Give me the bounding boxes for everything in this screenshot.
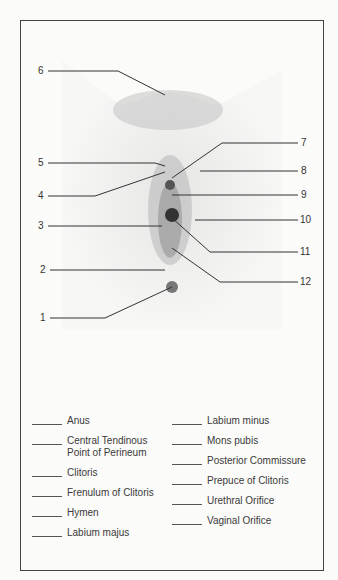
callout-8: 8 [301, 165, 307, 176]
key-item: Anus [32, 415, 162, 427]
answer-blank[interactable] [172, 484, 202, 485]
answer-blank[interactable] [32, 444, 62, 445]
key-item: Clitoris [32, 467, 162, 479]
callout-12: 12 [300, 276, 311, 287]
callout-10: 10 [300, 214, 311, 225]
key-item: Frenulum of Clitoris [32, 487, 162, 499]
key-item: Prepuce of Clitoris [172, 475, 322, 487]
answer-blank[interactable] [172, 424, 202, 425]
callout-7: 7 [301, 137, 307, 148]
answer-blank[interactable] [172, 524, 202, 525]
key-item: Urethral Orifice [172, 495, 322, 507]
callout-5: 5 [38, 157, 44, 168]
answer-blank[interactable] [172, 444, 202, 445]
anatomy-illustration [0, 0, 338, 400]
answer-blank[interactable] [32, 476, 62, 477]
callout-3: 3 [38, 220, 44, 231]
key-item: Central Tendinous Point of Perineum [32, 435, 162, 459]
key-item: Labium minus [172, 415, 322, 427]
answer-blank[interactable] [32, 424, 62, 425]
key-item: Vaginal Orifice [172, 515, 322, 527]
callout-11: 11 [300, 246, 310, 257]
answer-blank[interactable] [172, 504, 202, 505]
callout-1: 1 [40, 312, 46, 323]
callout-6: 6 [38, 65, 44, 76]
key-item: Mons pubis [172, 435, 322, 447]
answer-blank[interactable] [32, 516, 62, 517]
key-item: Labium majus [32, 527, 162, 539]
key-item: Posterior Commissure [172, 455, 322, 467]
callout-9: 9 [301, 189, 307, 200]
key-item: Hymen [32, 507, 162, 519]
answer-blank[interactable] [32, 536, 62, 537]
answer-key-left: Anus Central Tendinous Point of Perineum… [32, 415, 162, 547]
callout-2: 2 [40, 264, 46, 275]
answer-blank[interactable] [172, 464, 202, 465]
answer-blank[interactable] [32, 496, 62, 497]
callout-4: 4 [38, 190, 44, 201]
answer-key-right: Labium minus Mons pubis Posterior Commis… [172, 415, 322, 535]
